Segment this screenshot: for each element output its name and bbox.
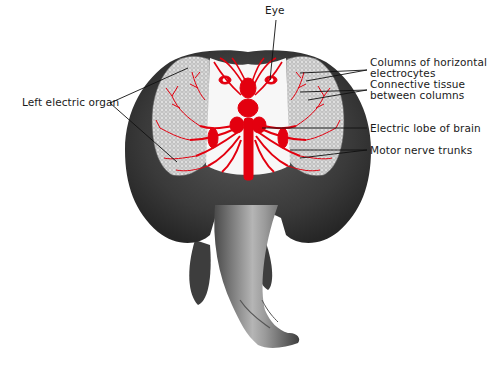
diagram-canvas: Eye Left electric organ Columns of horiz…: [0, 0, 496, 380]
label-motor-nerve-trunks: Motor nerve trunks: [370, 145, 472, 156]
label-connective-line2: between columns: [370, 90, 464, 101]
label-electric-lobe: Electric lobe of brain: [370, 123, 481, 134]
label-left-electric-organ: Left electric organ: [22, 97, 119, 108]
label-eye: Eye: [265, 5, 285, 16]
